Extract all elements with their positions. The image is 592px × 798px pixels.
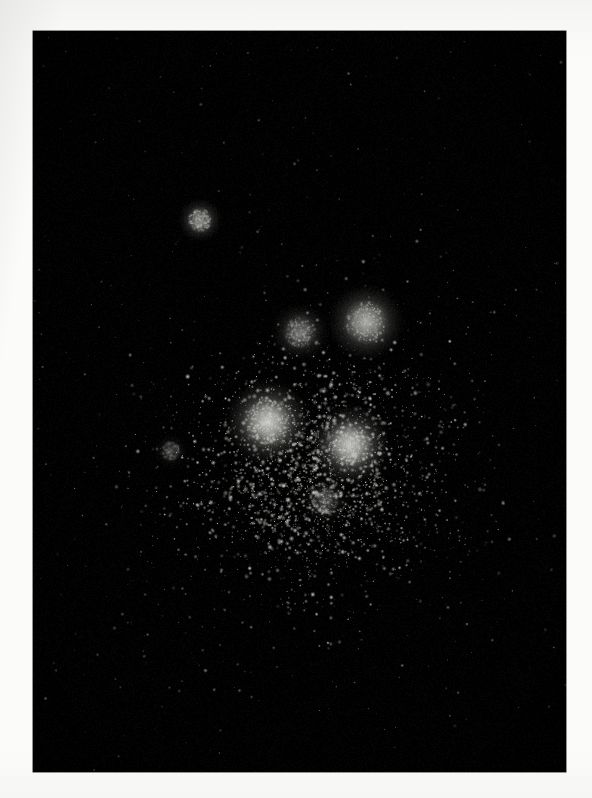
caption-strip (33, 776, 566, 794)
page-root (0, 0, 592, 798)
astronomical-photographic-plate (33, 31, 566, 772)
star-field (33, 31, 566, 772)
